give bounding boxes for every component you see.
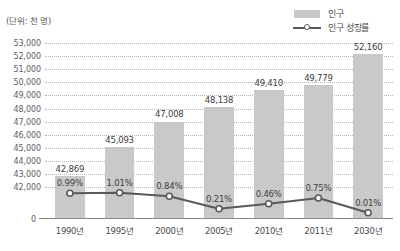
y-axis-tick-label: 45,000 [14,143,41,152]
x-axis-tick-label: 1995년 [105,224,133,236]
y-axis-tick-label: 43,000 [14,170,41,179]
x-axis-tick-label: 1990년 [56,224,84,236]
y-axis-tick-label: 52,000 [14,52,41,61]
growth-rate-value-label: 0.84% [156,181,182,191]
y-axis-tick-label: 48,000 [14,104,41,113]
y-axis-tick-label: 49,000 [14,91,41,100]
bar-value-label: 49,410 [254,78,283,88]
legend-item-growth-rate[interactable]: 인구 성장률 [292,21,396,34]
bar-value-label: 49,779 [304,73,333,83]
plot-area: 42,86945,09347,00848,13849,41049,77952,1… [45,43,393,219]
x-axis-line [39,218,393,219]
line-marker-icon [292,22,322,33]
x-axis-tick-label: 2005년 [205,224,233,236]
data-labels: 42,86945,09347,00848,13849,41049,77952,1… [45,43,393,219]
bar-value-label: 42,869 [56,164,85,174]
chart-legend: 인구 인구 성장률 [292,7,396,35]
x-axis-tick-label: 2030년 [354,224,382,236]
legend-item-population[interactable]: 인구 [292,7,396,20]
legend-label-growth-rate: 인구 성장률 [328,21,369,34]
growth-rate-value-label: 0.46% [256,189,282,199]
population-growth-chart: (단위: 천 명) 인구 인구 성장률 42,86945,09347,00848… [0,0,400,251]
bar-value-label: 48,138 [205,95,234,105]
y-axis-tick-label: 53,000 [14,39,41,48]
y-axis-zero-label: 0 [31,215,36,224]
x-axis-tick-label: 2011년 [304,224,332,236]
bar-value-label: 45,093 [105,135,134,145]
y-axis-tick-label: 50,000 [14,78,41,87]
growth-rate-value-label: 0.75% [305,183,331,193]
bar-value-label: 47,008 [155,109,184,119]
bar-value-label: 52,160 [354,42,383,52]
growth-rate-value-label: 0.21% [206,194,232,204]
unit-caption: (단위: 천 명) [6,14,51,26]
legend-label-population: 인구 [328,7,343,20]
growth-rate-value-label: 0.01% [355,198,381,208]
y-axis-tick-label: 51,000 [14,65,41,74]
y-axis-tick-label: 46,000 [14,130,41,139]
y-axis-tick-label: 42,000 [14,183,41,192]
growth-rate-value-label: 1.01% [107,178,133,188]
x-axis-tick-label: 2000년 [155,224,183,236]
y-axis-tick-label: 47,000 [14,117,41,126]
x-axis-tick-label: 2010년 [255,224,283,236]
bar-swatch-icon [292,8,322,19]
y-axis-tick-label: 44,000 [14,156,41,165]
growth-rate-value-label: 0.99% [57,178,83,188]
